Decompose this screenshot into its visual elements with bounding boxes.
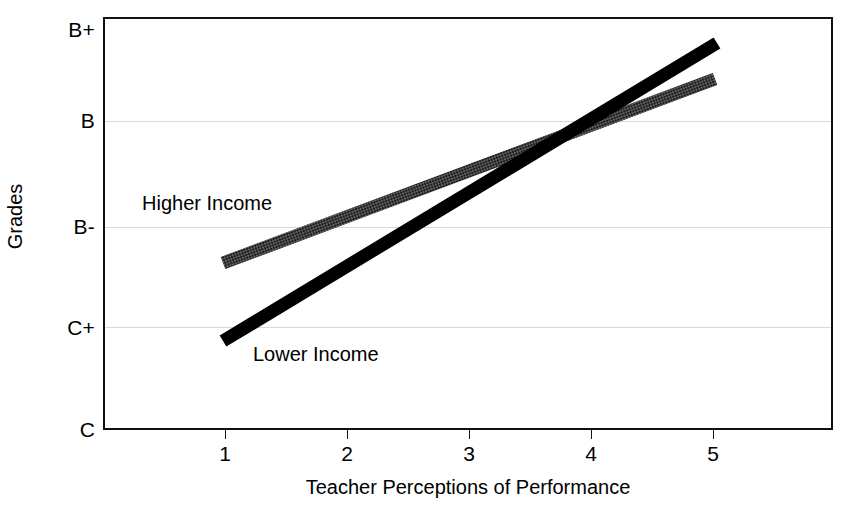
x-axis-title: Teacher Perceptions of Performance [103, 476, 833, 499]
y-axis-title: Grades [4, 157, 27, 277]
plot-area [103, 17, 833, 430]
x-tick-mark-3 [469, 430, 470, 439]
y-tick-label-b-plus: B+ [35, 19, 95, 40]
x-tick-label-2: 2 [327, 443, 367, 465]
x-tick-mark-2 [347, 430, 348, 439]
chart-figure: Higher Income Lower Income B+ B B- C+ C … [0, 0, 854, 514]
x-tick-label-4: 4 [571, 443, 611, 465]
y-axis-ticks: B+ B B- C+ C [33, 0, 95, 514]
x-tick-mark-5 [713, 430, 714, 439]
series-label-lower-income: Lower Income [253, 343, 379, 365]
x-tick-mark-4 [591, 430, 592, 439]
gridline-b-minus [105, 227, 831, 228]
x-tick-label-5: 5 [693, 443, 733, 465]
gridline-b [105, 121, 831, 122]
y-tick-label-b-minus: B- [35, 216, 95, 237]
y-tick-label-c: C [35, 419, 95, 440]
y-tick-label-b: B [35, 110, 95, 131]
series-label-higher-income: Higher Income [142, 192, 272, 214]
y-tick-label-c-plus: C+ [35, 317, 95, 338]
gridline-c-plus [105, 327, 831, 328]
x-tick-label-3: 3 [449, 443, 489, 465]
x-tick-label-1: 1 [205, 443, 245, 465]
x-tick-mark-1 [225, 430, 226, 439]
